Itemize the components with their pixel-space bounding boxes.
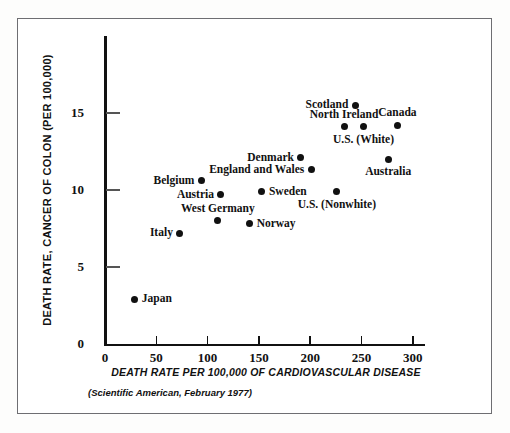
point-label-italy: Italy xyxy=(150,227,173,239)
y-tick-15 xyxy=(106,112,120,114)
x-tick-label-0: 0 xyxy=(102,350,109,366)
figure-root: 050100150200250300 051015 JapanItalyWest… xyxy=(0,0,510,433)
x-tick-300 xyxy=(412,336,414,345)
x-axis-title: DEATH RATE PER 100,000 OF CARDIOVASCULAR… xyxy=(111,366,421,378)
point-label-australia: Australia xyxy=(365,166,411,178)
y-tick-label-10: 10 xyxy=(71,182,84,198)
point-label-canada: Canada xyxy=(378,107,416,119)
x-tick-label-250: 250 xyxy=(352,350,372,366)
data-point-england-and-wales xyxy=(308,166,315,173)
y-axis-title: DEATH RATE, CANCER OF COLON (PER 100,000… xyxy=(41,54,53,326)
x-tick-label-300: 300 xyxy=(403,350,423,366)
point-label-sweden: Sweden xyxy=(269,186,307,198)
data-point-belgium xyxy=(198,177,205,184)
data-point-austria xyxy=(217,191,224,198)
data-point-japan xyxy=(131,296,138,303)
x-tick-100 xyxy=(207,336,209,345)
y-tick-label-5: 5 xyxy=(78,259,85,275)
data-point-denmark xyxy=(297,154,304,161)
x-tick-200 xyxy=(309,336,311,345)
data-point-italy xyxy=(176,230,183,237)
source-caption: (Scientific American, February 1977) xyxy=(88,387,252,398)
x-tick-150 xyxy=(258,336,260,345)
point-label-u-s-white: U.S. (White) xyxy=(333,134,394,146)
x-tick-label-150: 150 xyxy=(249,350,269,366)
x-tick-label-200: 200 xyxy=(300,350,320,366)
x-tick-label-100: 100 xyxy=(198,350,218,366)
y-axis-line xyxy=(104,36,107,346)
point-label-u-s-nonwhite: U.S. (Nonwhite) xyxy=(298,199,376,211)
x-tick-250 xyxy=(361,336,363,345)
point-label-england-and-wales: England and Wales xyxy=(209,164,304,176)
x-axis-line xyxy=(104,344,425,347)
y-tick-10 xyxy=(106,189,120,191)
data-point-u-s-white xyxy=(360,123,367,130)
y-tick-5 xyxy=(106,266,120,268)
point-label-denmark: Denmark xyxy=(247,152,294,164)
data-point-norway xyxy=(246,220,253,227)
data-point-north-ireland xyxy=(341,123,348,130)
x-tick-label-50: 50 xyxy=(150,350,163,366)
y-tick-label-15: 15 xyxy=(71,105,84,121)
y-tick-label-0: 0 xyxy=(78,336,85,352)
point-label-belgium: Belgium xyxy=(154,175,195,187)
data-point-scotland xyxy=(352,102,359,109)
scatter-plot-area: 050100150200250300 051015 JapanItalyWest… xyxy=(0,0,510,433)
data-point-u-s-nonwhite xyxy=(333,188,340,195)
data-point-australia xyxy=(385,156,392,163)
point-label-japan: Japan xyxy=(142,294,172,306)
point-label-norway: Norway xyxy=(257,218,296,230)
data-point-sweden xyxy=(258,188,265,195)
point-label-west-germany: West Germany xyxy=(181,202,255,214)
data-point-west-germany xyxy=(214,217,221,224)
point-label-scotland: Scotland xyxy=(306,100,349,112)
point-label-austria: Austria xyxy=(177,189,214,201)
data-point-canada xyxy=(394,122,401,129)
x-tick-0 xyxy=(104,336,106,345)
x-tick-50 xyxy=(156,336,158,345)
